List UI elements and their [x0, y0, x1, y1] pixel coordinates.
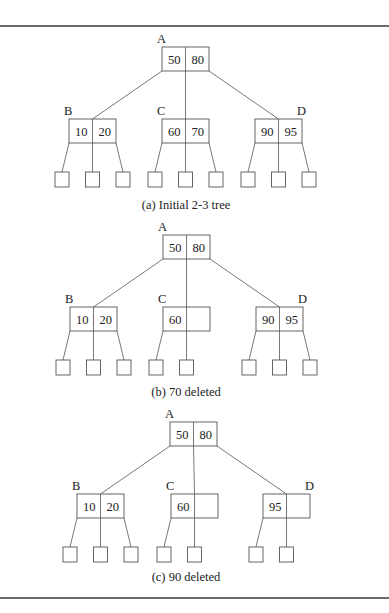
leaf-node	[188, 547, 202, 562]
leaf-node	[273, 360, 287, 375]
node-key: 60	[169, 313, 182, 327]
b-tree-deletion-figure: 5080A1020B6070C9095D(a) Initial 2-3 tree…	[0, 0, 389, 613]
edge-A-D	[217, 446, 287, 494]
leaf-node	[241, 172, 255, 187]
node-key: 10	[75, 125, 88, 139]
node-key: 10	[76, 313, 89, 327]
node-label: C	[158, 292, 166, 306]
edge-C-leaf	[209, 143, 216, 172]
leaf-node	[117, 360, 131, 375]
tree-node-d: 9095D	[256, 292, 307, 331]
node-key: 50	[168, 53, 181, 67]
leaf-node	[180, 360, 194, 375]
node-key: 70	[192, 125, 205, 139]
node-label: B	[72, 479, 80, 493]
edge-B-leaf	[116, 143, 123, 172]
node-key: 50	[169, 241, 182, 255]
edge-A-C	[194, 446, 195, 494]
edge-A-B	[93, 71, 163, 119]
tree-node-b: 1020B	[65, 292, 117, 331]
panel-caption: (c) 90 deleted	[152, 570, 221, 584]
leaf-node	[149, 360, 163, 375]
tree-panels: 5080A1020B6070C9095D(a) Initial 2-3 tree…	[55, 32, 317, 584]
node-key: 95	[286, 313, 299, 327]
edge-A-B	[101, 446, 171, 494]
tree-node-c: 60C	[158, 292, 210, 331]
leaf-node	[124, 547, 138, 562]
node-key: 80	[200, 428, 213, 442]
tree-node-a: 5080A	[157, 32, 209, 71]
node-key: 20	[99, 125, 112, 139]
node-label: B	[64, 104, 72, 118]
node-label: A	[157, 32, 166, 46]
edge-A-D	[210, 259, 280, 307]
tree-node-b: 1020B	[64, 104, 116, 143]
node-key: 95	[285, 125, 298, 139]
node-key: 10	[83, 500, 96, 514]
tree-node-c: 6070C	[157, 104, 209, 143]
node-key: 80	[193, 241, 206, 255]
edge-C-leaf	[164, 518, 171, 547]
leaf-node	[179, 172, 193, 187]
edge-D-leaf	[256, 518, 263, 547]
node-key: 95	[269, 500, 282, 514]
node-label: A	[165, 407, 174, 421]
tree-panel-c: 5080A1020B60C95D(c) 90 deleted	[63, 407, 314, 584]
node-key: 20	[100, 313, 113, 327]
edge-A-B	[94, 259, 164, 307]
node-label: B	[65, 292, 73, 306]
node-key: 90	[261, 125, 274, 139]
node-label: A	[158, 220, 167, 234]
node-key: 50	[176, 428, 189, 442]
panel-caption: (b) 70 deleted	[151, 385, 221, 399]
node-key: 80	[192, 53, 205, 67]
edge-C-leaf	[156, 331, 163, 360]
leaf-node	[87, 360, 101, 375]
tree-node-c: 60C	[166, 479, 218, 518]
node-key: 20	[107, 500, 120, 514]
node-key: 60	[177, 500, 190, 514]
edge-A-D	[209, 71, 279, 119]
edge-B-leaf	[124, 518, 131, 547]
leaf-node	[280, 547, 294, 562]
leaf-node	[242, 360, 256, 375]
edge-D-leaf	[248, 143, 255, 172]
node-label: C	[157, 104, 165, 118]
leaf-node	[148, 172, 162, 187]
edge-B-leaf	[62, 143, 69, 172]
leaf-node	[209, 172, 223, 187]
leaf-node	[116, 172, 130, 187]
edge-D-leaf	[303, 331, 310, 360]
leaf-node	[302, 172, 316, 187]
leaf-node	[55, 172, 69, 187]
leaf-node	[249, 547, 263, 562]
edge-B-leaf	[63, 331, 70, 360]
leaf-node	[94, 547, 108, 562]
edge-B-leaf	[70, 518, 77, 547]
leaf-node	[56, 360, 70, 375]
edge-D-leaf	[249, 331, 256, 360]
leaf-node	[86, 172, 100, 187]
leaf-node	[303, 360, 317, 375]
tree-node-a: 5080A	[158, 220, 210, 259]
leaf-node	[157, 547, 171, 562]
node-label: D	[298, 292, 307, 306]
node-label: D	[305, 479, 314, 493]
tree-panel-a: 5080A1020B6070C9095D(a) Initial 2-3 tree	[55, 32, 316, 212]
leaf-node	[272, 172, 286, 187]
node-label: D	[297, 104, 306, 118]
edge-B-leaf	[117, 331, 124, 360]
leaf-node	[63, 547, 77, 562]
tree-node-b: 1020B	[72, 479, 124, 518]
node-key: 60	[168, 125, 181, 139]
edge-D-leaf	[302, 143, 309, 172]
tree-node-a: 5080A	[165, 407, 217, 446]
tree-node-d: 95D	[263, 479, 314, 518]
tree-panel-b: 5080A1020B60C9095D(b) 70 deleted	[56, 220, 317, 399]
panel-caption: (a) Initial 2-3 tree	[142, 198, 231, 212]
node-label: C	[166, 479, 174, 493]
edge-C-leaf	[155, 143, 162, 172]
tree-node-d: 9095D	[255, 104, 306, 143]
node-key: 90	[262, 313, 275, 327]
